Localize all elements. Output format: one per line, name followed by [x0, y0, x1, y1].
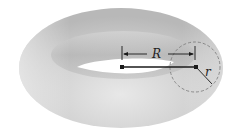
- major-radius-label: R: [151, 47, 161, 61]
- torus-center-point: [120, 65, 124, 69]
- torus-diagram: R r: [0, 0, 235, 135]
